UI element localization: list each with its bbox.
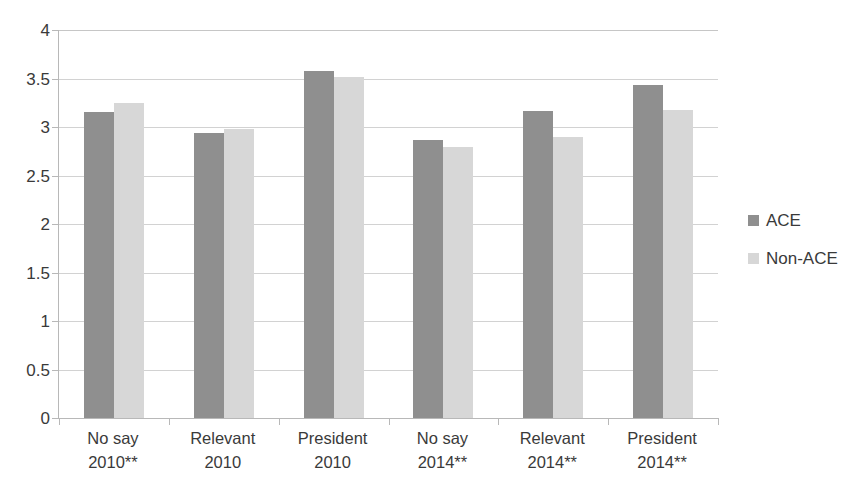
bar-non-ace xyxy=(334,77,364,418)
y-axis-tick-label: 1 xyxy=(6,313,50,330)
bar-ace xyxy=(304,71,334,418)
y-axis-labels: 43.532.521.510.50 xyxy=(0,30,50,419)
x-axis-labels: No say 2010**Relevant 2010President 2010… xyxy=(58,427,718,485)
y-axis-tick xyxy=(52,127,59,128)
y-axis-tick-label: 4 xyxy=(6,22,50,39)
y-axis-tick xyxy=(52,370,59,371)
y-axis-tick-label: 0.5 xyxy=(6,361,50,378)
bar-non-ace xyxy=(553,137,583,418)
bar-non-ace xyxy=(663,110,693,418)
bar-ace xyxy=(633,85,663,418)
x-axis-tick xyxy=(279,418,280,425)
bar-group xyxy=(608,30,718,418)
x-axis-tick xyxy=(608,418,609,425)
x-axis-tick xyxy=(389,418,390,425)
y-axis-tick-label: 0 xyxy=(6,410,50,427)
bar-group xyxy=(169,30,279,418)
bar-group xyxy=(59,30,169,418)
y-axis-tick-label: 2.5 xyxy=(6,167,50,184)
bar-non-ace xyxy=(224,129,254,418)
x-axis-category-label: No say 2010** xyxy=(58,427,168,475)
chart-legend: ACENon-ACE xyxy=(748,212,860,288)
x-axis-tick xyxy=(169,418,170,425)
legend-swatch-icon xyxy=(748,215,759,226)
plot-area xyxy=(58,30,718,419)
x-axis-category-label: President 2014** xyxy=(607,427,717,475)
x-axis-category-label: Relevant 2010 xyxy=(168,427,278,475)
x-axis-tick xyxy=(718,418,719,425)
y-axis-tick-label: 1.5 xyxy=(6,264,50,281)
bar-ace xyxy=(413,140,443,418)
legend-label: ACE xyxy=(766,212,801,229)
x-axis-tick xyxy=(498,418,499,425)
legend-label: Non-ACE xyxy=(766,250,838,267)
bar-non-ace xyxy=(443,147,473,418)
bar-chart: 43.532.521.510.50 No say 2010**Relevant … xyxy=(0,0,863,489)
legend-item: Non-ACE xyxy=(748,250,860,266)
bar-group xyxy=(389,30,499,418)
bar-group xyxy=(498,30,608,418)
y-axis-tick xyxy=(52,176,59,177)
bar-ace xyxy=(84,112,114,418)
legend-swatch-icon xyxy=(748,253,759,264)
x-axis-category-label: President 2010 xyxy=(278,427,388,475)
bar-non-ace xyxy=(114,103,144,418)
y-axis-tick-label: 3 xyxy=(6,119,50,136)
y-axis-tick xyxy=(52,224,59,225)
y-axis-tick-label: 2 xyxy=(6,216,50,233)
x-axis-category-label: No say 2014** xyxy=(388,427,498,475)
y-axis-tick-label: 3.5 xyxy=(6,70,50,87)
y-axis-tick xyxy=(52,30,59,31)
bar-group xyxy=(279,30,389,418)
legend-item: ACE xyxy=(748,212,860,228)
x-axis-tick xyxy=(59,418,60,425)
x-axis-category-label: Relevant 2014** xyxy=(497,427,607,475)
y-axis-tick xyxy=(52,273,59,274)
bar-ace xyxy=(523,111,553,418)
y-axis-tick xyxy=(52,79,59,80)
bar-ace xyxy=(194,133,224,418)
y-axis-tick xyxy=(52,321,59,322)
y-axis-tick xyxy=(52,418,59,419)
